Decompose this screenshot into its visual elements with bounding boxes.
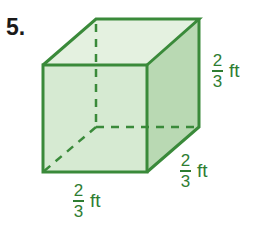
height-unit: ft <box>229 60 240 82</box>
width-numerator: 2 <box>74 182 83 199</box>
width-denominator: 3 <box>74 203 83 220</box>
depth-unit: ft <box>197 160 208 182</box>
height-numerator: 2 <box>213 52 222 69</box>
height-fraction: 2 3 <box>212 52 223 90</box>
depth-denominator: 3 <box>181 173 190 190</box>
depth-label: 2 3 ft <box>180 152 208 190</box>
height-denominator: 3 <box>213 73 222 90</box>
depth-fraction: 2 3 <box>180 152 191 190</box>
cube-figure <box>0 0 255 225</box>
width-fraction: 2 3 <box>73 182 84 220</box>
height-label: 2 3 ft <box>212 52 240 90</box>
depth-numerator: 2 <box>181 152 190 169</box>
width-label: 2 3 ft <box>73 182 101 220</box>
width-unit: ft <box>90 190 101 212</box>
